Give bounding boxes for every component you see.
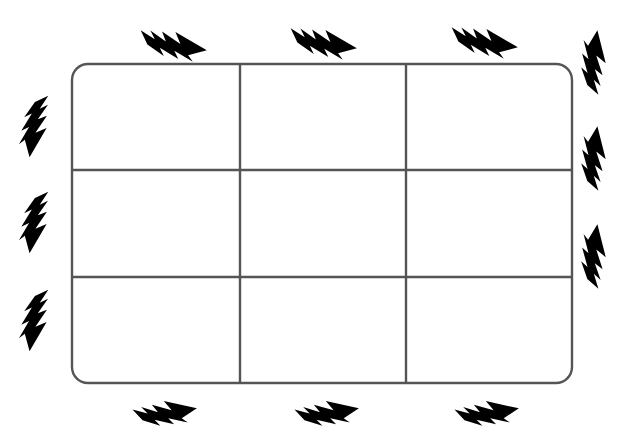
lightning-bolt-icon (137, 27, 208, 63)
bolt-top-1 (137, 27, 208, 63)
lightning-bolt-icon (17, 287, 51, 354)
bolt-top-3 (448, 24, 519, 60)
lightning-bolt-icon (287, 25, 358, 61)
bolt-right-1 (576, 29, 610, 96)
bolt-left-1 (17, 93, 51, 160)
lightning-bolt-icon (17, 189, 51, 256)
bolt-bottom-1 (132, 396, 199, 432)
grid-with-lightning-bolts-diagram (0, 0, 642, 443)
nine-cell-grid (72, 64, 572, 383)
bolt-left-2 (17, 189, 51, 256)
lightning-bolt-icon (576, 125, 610, 192)
lightning-bolt-icon (576, 223, 610, 290)
diagram-canvas (0, 0, 642, 443)
bolt-top-2 (287, 25, 358, 61)
lightning-bolt-icon (17, 93, 51, 160)
lightning-bolt-icon (454, 396, 521, 432)
bolt-right-2 (576, 125, 610, 192)
bolt-right-3 (576, 223, 610, 290)
bolt-left-3 (17, 287, 51, 354)
lightning-bolt-icon (576, 29, 610, 96)
bolt-bottom-2 (294, 396, 361, 432)
lightning-bolt-icon (448, 24, 519, 60)
lightning-bolt-icon (132, 396, 199, 432)
lightning-bolt-icon (294, 396, 361, 432)
bolt-bottom-3 (454, 396, 521, 432)
